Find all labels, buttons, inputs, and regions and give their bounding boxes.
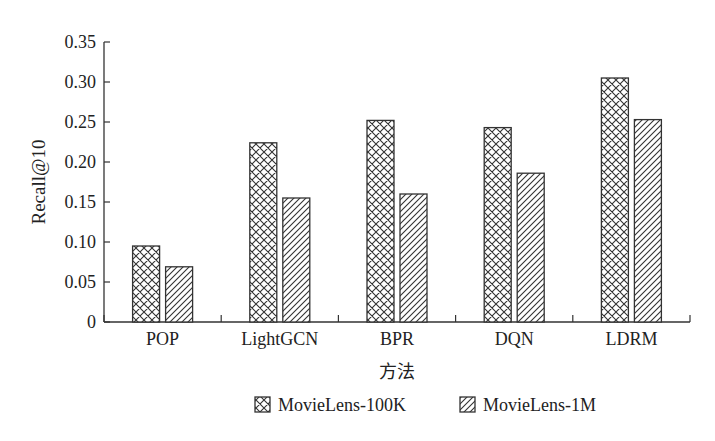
- x-tick-label: LDRM: [605, 329, 657, 349]
- legend-item: MovieLens-1M: [460, 395, 596, 415]
- bar-ldrm-1m: [634, 120, 661, 322]
- bar-dqn-100k: [484, 128, 511, 322]
- bar-bpr-100k: [367, 120, 394, 322]
- x-axis-label: 方法: [379, 362, 415, 382]
- bar-lightgcn-100k: [250, 143, 277, 322]
- bar-dqn-1m: [517, 173, 544, 322]
- bars: [133, 78, 662, 322]
- legend-swatch-icon: [255, 397, 270, 412]
- legend: MovieLens-100KMovieLens-1M: [255, 395, 596, 415]
- y-axis-label: Recall@10: [28, 139, 49, 224]
- x-tick-label: DQN: [495, 329, 534, 349]
- y-tick-label: 0.05: [65, 272, 97, 292]
- bar-ldrm-100k: [601, 78, 628, 322]
- x-tick-label: POP: [146, 329, 179, 349]
- y-tick-label: 0: [87, 312, 96, 332]
- y-tick-label: 0.20: [65, 152, 97, 172]
- x-tick-label: LightGCN: [241, 329, 318, 349]
- bar-chart: 00.050.100.150.200.250.300.35POPLightGCN…: [0, 0, 715, 441]
- bar-pop-1m: [166, 267, 193, 322]
- legend-label: MovieLens-1M: [483, 395, 596, 415]
- legend-item: MovieLens-100K: [255, 395, 406, 415]
- x-tick-label: BPR: [380, 329, 414, 349]
- y-tick-label: 0.25: [65, 112, 97, 132]
- legend-swatch-icon: [460, 397, 475, 412]
- legend-label: MovieLens-100K: [278, 395, 406, 415]
- y-tick-label: 0.10: [65, 232, 97, 252]
- bar-lightgcn-1m: [283, 198, 310, 322]
- y-tick-label: 0.30: [65, 72, 97, 92]
- bar-pop-100k: [133, 246, 160, 322]
- y-tick-label: 0.35: [65, 32, 97, 52]
- y-tick-label: 0.15: [65, 192, 97, 212]
- bar-bpr-1m: [400, 194, 427, 322]
